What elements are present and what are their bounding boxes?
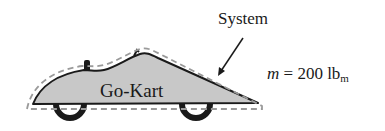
mass-label: m = 200 lbm <box>267 64 349 84</box>
mass-unit: lb <box>327 64 340 83</box>
front-wheel-icon <box>182 104 210 118</box>
mass-unit-subscript: m <box>340 72 349 84</box>
mass-symbol: m <box>267 64 279 83</box>
go-kart-label: Go-Kart <box>100 80 163 102</box>
mass-value: 200 <box>297 64 323 83</box>
system-arrow-icon <box>218 38 243 76</box>
system-label: System <box>218 9 268 29</box>
rear-wheel-icon <box>56 104 84 118</box>
mass-equals: = <box>284 64 294 83</box>
go-kart-system-diagram: Go-Kart System m = 200 lbm <box>0 0 385 131</box>
